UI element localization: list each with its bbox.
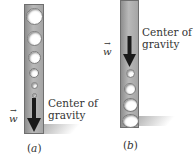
center-of-gravity-label: Center of gravity bbox=[142, 26, 192, 50]
panel-a: → w Center of gravity (a) bbox=[0, 0, 97, 162]
hole bbox=[26, 8, 43, 25]
hole bbox=[126, 69, 135, 78]
panel-caption-a: (a) bbox=[27, 142, 41, 154]
weight-arrow-icon bbox=[24, 96, 44, 134]
hole bbox=[122, 114, 139, 128]
weight-arrow-icon bbox=[120, 34, 139, 70]
weight-vector-label: → w bbox=[103, 46, 112, 57]
panel-caption-b: (b) bbox=[123, 139, 138, 151]
center-of-gravity-label: Center of gravity bbox=[48, 97, 98, 121]
vector-arrow-icon: → bbox=[10, 106, 17, 115]
hole bbox=[123, 98, 138, 112]
weight-vector-label: → w bbox=[9, 113, 18, 124]
hole bbox=[31, 82, 38, 89]
hole bbox=[28, 51, 41, 64]
hole bbox=[29, 68, 39, 78]
vector-arrow-icon: → bbox=[104, 39, 111, 48]
panel-b: → w Center of gravity (b) bbox=[97, 0, 194, 162]
hole bbox=[124, 83, 136, 95]
hole bbox=[27, 31, 42, 46]
